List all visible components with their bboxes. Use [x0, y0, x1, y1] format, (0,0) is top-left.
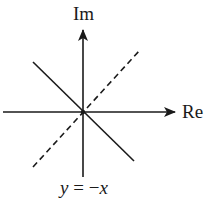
origin-point — [81, 110, 85, 114]
real-axis-label: Re — [182, 102, 203, 121]
dashed-line — [33, 50, 140, 167]
caption-equals: = — [68, 177, 88, 198]
caption-minus: − — [89, 177, 100, 198]
imaginary-axis-label: Im — [73, 4, 94, 23]
line-equation-caption: y = −x — [60, 178, 108, 197]
caption-var-x: x — [99, 177, 107, 198]
complex-plane-diagram: Im Re y = −x — [0, 0, 218, 203]
